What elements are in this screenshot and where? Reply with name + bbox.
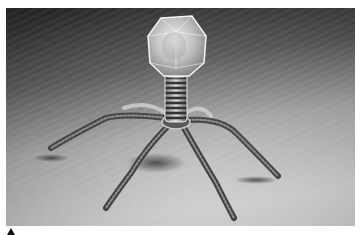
triangle-up-icon (7, 228, 15, 235)
phage-image (6, 8, 355, 226)
phage-illustration (6, 8, 355, 226)
